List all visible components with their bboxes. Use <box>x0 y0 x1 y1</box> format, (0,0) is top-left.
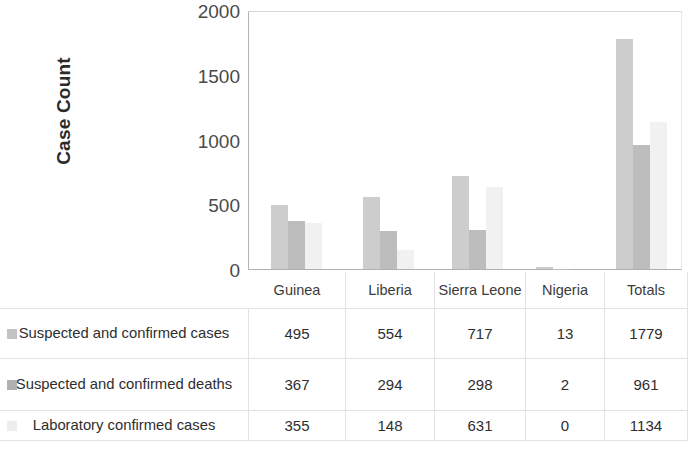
column-header-nigeria: Nigeria <box>526 272 605 309</box>
legend-swatch-icon <box>7 329 17 339</box>
column-header-totals: Totals <box>605 272 688 309</box>
legend-label-text: Suspected and confirmed cases <box>19 325 230 341</box>
bar-group-totals <box>601 12 683 269</box>
bar-sierra-leone-s3 <box>486 187 503 269</box>
legend-label-text: Laboratory confirmed cases <box>33 417 216 433</box>
cell-value: 1779 <box>605 309 688 359</box>
cell-value: 2 <box>526 359 605 411</box>
bar-nigeria-s1 <box>536 267 553 269</box>
bar-group-nigeria <box>523 12 601 269</box>
cell-value: 298 <box>435 359 526 411</box>
bar-liberia-s3 <box>397 250 414 269</box>
cell-value: 717 <box>435 309 526 359</box>
cell-value: 495 <box>249 309 346 359</box>
cell-value: 148 <box>346 411 435 441</box>
bar-totals-s2 <box>633 145 650 269</box>
bar-totals-s3 <box>650 122 667 269</box>
legend-swatch-icon <box>7 421 17 431</box>
table-row: Laboratory confirmed cases35514863101134 <box>0 411 688 441</box>
table-row: Suspected and confirmed deaths3672942982… <box>0 359 688 411</box>
y-tick-1000: 1000 <box>168 132 240 151</box>
column-header-liberia: Liberia <box>346 272 435 309</box>
bar-totals-s1 <box>616 39 633 269</box>
legend-label-text: Suspected and confirmed deaths <box>16 376 232 392</box>
bar-sierra-leone-s2 <box>469 230 486 269</box>
cell-value: 294 <box>346 359 435 411</box>
cell-value: 367 <box>249 359 346 411</box>
table-head: GuineaLiberiaSierra LeoneNigeriaTotals <box>0 272 688 309</box>
bar-guinea-s3 <box>305 223 322 269</box>
cell-value: 355 <box>249 411 346 441</box>
y-tick-500: 500 <box>168 196 240 215</box>
data-table: GuineaLiberiaSierra LeoneNigeriaTotals S… <box>0 272 688 441</box>
bar-chart: Case Count 2000150010005000 <box>0 0 683 283</box>
bar-liberia-s2 <box>380 231 397 269</box>
y-axis-title: Case Count <box>53 1 75 221</box>
legend-swatch-icon <box>7 380 17 390</box>
legend-row-label: Laboratory confirmed cases <box>0 411 249 441</box>
plot-area <box>248 11 682 270</box>
table-header-row: GuineaLiberiaSierra LeoneNigeriaTotals <box>0 272 688 309</box>
table-corner-cell <box>0 272 249 309</box>
legend-row-label: Suspected and confirmed deaths <box>0 359 249 411</box>
bar-group-guinea <box>249 12 345 269</box>
legend-row-label: Suspected and confirmed cases <box>0 309 249 359</box>
column-header-sierra-leone: Sierra Leone <box>435 272 526 309</box>
y-axis-tick-labels: 2000150010005000 <box>168 0 240 283</box>
cell-value: 13 <box>526 309 605 359</box>
bar-group-sierra-leone <box>433 12 523 269</box>
cell-value: 961 <box>605 359 688 411</box>
bar-guinea-s1 <box>271 205 288 269</box>
bar-liberia-s1 <box>363 197 380 269</box>
y-tick-2000: 2000 <box>168 2 240 21</box>
cell-value: 631 <box>435 411 526 441</box>
bar-group-liberia <box>345 12 433 269</box>
cell-value: 1134 <box>605 411 688 441</box>
column-header-guinea: Guinea <box>249 272 346 309</box>
table-row: Suspected and confirmed cases49555471713… <box>0 309 688 359</box>
y-tick-1500: 1500 <box>168 67 240 86</box>
bar-sierra-leone-s1 <box>452 176 469 269</box>
cell-value: 0 <box>526 411 605 441</box>
cell-value: 554 <box>346 309 435 359</box>
table-body: Suspected and confirmed cases49555471713… <box>0 309 688 441</box>
bar-guinea-s2 <box>288 221 305 269</box>
